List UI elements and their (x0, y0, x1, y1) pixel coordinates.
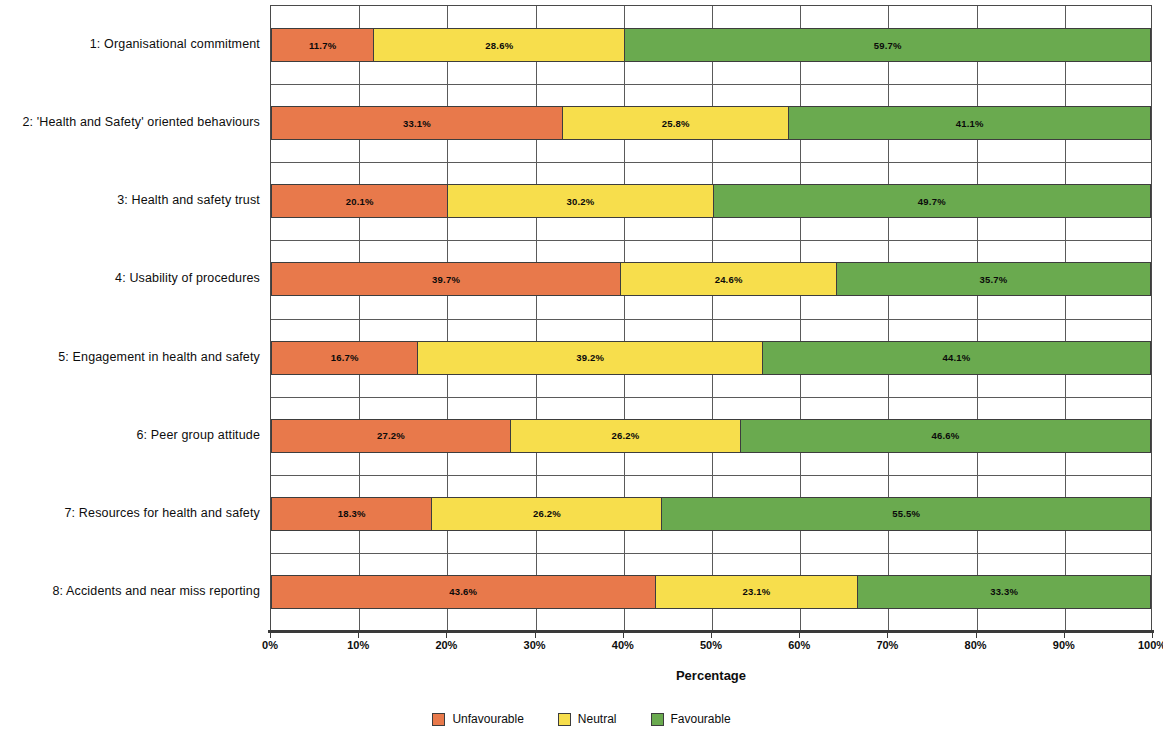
x-axis-tick (799, 633, 800, 638)
bar-value-label: 46.6% (932, 430, 960, 441)
bar-row[interactable]: 18.3%26.2%55.5% (271, 497, 1151, 531)
bar-row[interactable]: 16.7%39.2%44.1% (271, 341, 1151, 375)
x-axis-tick-label: 40% (612, 639, 634, 651)
bar-segment-neutral[interactable]: 23.1% (655, 575, 859, 609)
legend-label: Neutral (578, 712, 617, 726)
category-label: 1: Organisational commitment (2, 37, 260, 51)
category-label: 3: Health and safety trust (2, 193, 260, 207)
bar-value-label: 59.7% (874, 40, 902, 51)
bar-segment-unfavourable[interactable]: 43.6% (271, 575, 656, 609)
bar-segment-neutral[interactable]: 30.2% (447, 184, 713, 218)
bar-segment-unfavourable[interactable]: 16.7% (271, 341, 418, 375)
bar-value-label: 39.2% (576, 352, 604, 363)
category-label: 5: Engagement in health and safety (2, 350, 260, 364)
x-axis-tick-label: 60% (788, 639, 810, 651)
horizontal-gridline (271, 240, 1151, 241)
bar-row[interactable]: 27.2%26.2%46.6% (271, 419, 1151, 453)
legend-swatch-icon (432, 713, 445, 726)
bar-segment-neutral[interactable]: 26.2% (431, 497, 662, 531)
x-axis-tick (446, 633, 447, 638)
x-axis-tick (270, 633, 271, 638)
bar-segment-favourable[interactable]: 55.5% (661, 497, 1151, 531)
bar-segment-unfavourable[interactable]: 18.3% (271, 497, 432, 531)
x-axis-tick-label: 20% (435, 639, 457, 651)
bar-segment-favourable[interactable]: 49.7% (713, 184, 1151, 218)
horizontal-gridline (271, 475, 1151, 476)
category-axis-labels: 1: Organisational commitment2: 'Health a… (0, 5, 266, 630)
x-axis-tick (623, 633, 624, 638)
bar-segment-favourable[interactable]: 59.7% (624, 28, 1151, 62)
bar-segment-favourable[interactable]: 33.3% (857, 575, 1151, 609)
bar-row[interactable]: 43.6%23.1%33.3% (271, 575, 1151, 609)
x-axis-tick-label: 80% (965, 639, 987, 651)
bar-segment-neutral[interactable]: 25.8% (562, 106, 790, 140)
bar-segment-favourable[interactable]: 44.1% (762, 341, 1151, 375)
vertical-gridline (712, 6, 713, 630)
chart-legend: UnfavourableNeutralFavourable (0, 712, 1163, 726)
bar-segment-neutral[interactable]: 26.2% (510, 419, 741, 453)
bar-segment-unfavourable[interactable]: 20.1% (271, 184, 448, 218)
legend-swatch-icon (651, 713, 664, 726)
bar-value-label: 23.1% (742, 586, 770, 597)
bar-segment-unfavourable[interactable]: 11.7% (271, 28, 374, 62)
x-axis-tick-labels: 0%10%20%30%40%50%60%70%80%90%100% (270, 639, 1152, 655)
vertical-gridline (1065, 6, 1066, 630)
x-axis-tick (887, 633, 888, 638)
vertical-gridline (977, 6, 978, 630)
bar-value-label: 35.7% (980, 274, 1008, 285)
bar-value-label: 25.8% (662, 118, 690, 129)
bar-row[interactable]: 39.7%24.6%35.7% (271, 262, 1151, 296)
x-axis-tick-label: 30% (524, 639, 546, 651)
x-axis-tick (1064, 633, 1065, 638)
horizontal-gridline (271, 84, 1151, 85)
vertical-gridline (800, 6, 801, 630)
legend-item[interactable]: Unfavourable (432, 712, 523, 726)
bar-value-label: 11.7% (309, 40, 336, 51)
category-label: 8: Accidents and near miss reporting (2, 584, 260, 598)
vertical-gridline (888, 6, 889, 630)
bar-value-label: 39.7% (432, 274, 460, 285)
bar-value-label: 30.2% (566, 196, 594, 207)
bar-row[interactable]: 33.1%25.8%41.1% (271, 106, 1151, 140)
legend-swatch-icon (558, 713, 571, 726)
bar-value-label: 24.6% (715, 274, 743, 285)
bar-segment-neutral[interactable]: 28.6% (373, 28, 625, 62)
bar-segment-favourable[interactable]: 35.7% (836, 262, 1151, 296)
horizontal-gridline (271, 397, 1151, 398)
horizontal-gridline (271, 553, 1151, 554)
bar-row[interactable]: 20.1%30.2%49.7% (271, 184, 1151, 218)
bar-value-label: 16.7% (331, 352, 359, 363)
bar-segment-unfavourable[interactable]: 27.2% (271, 419, 511, 453)
bar-segment-neutral[interactable]: 24.6% (620, 262, 837, 296)
x-axis-tick-label: 70% (876, 639, 898, 651)
x-axis-tick-label: 50% (700, 639, 722, 651)
bar-value-label: 55.5% (892, 508, 920, 519)
bar-value-label: 20.1% (346, 196, 374, 207)
legend-label: Favourable (671, 712, 731, 726)
horizontal-gridline (271, 319, 1151, 320)
bar-value-label: 33.3% (990, 586, 1018, 597)
x-axis-tick (711, 633, 712, 638)
bar-segment-unfavourable[interactable]: 33.1% (271, 106, 563, 140)
x-axis-title: Percentage (270, 668, 1152, 683)
vertical-gridline (624, 6, 625, 630)
bar-segment-neutral[interactable]: 39.2% (417, 341, 763, 375)
x-axis-tick (358, 633, 359, 638)
bar-value-label: 26.2% (611, 430, 639, 441)
bar-value-label: 27.2% (377, 430, 405, 441)
bar-value-label: 28.6% (485, 40, 513, 51)
horizontal-gridline (271, 162, 1151, 163)
stacked-bar-chart: 1: Organisational commitment2: 'Health a… (0, 0, 1163, 748)
legend-item[interactable]: Favourable (651, 712, 731, 726)
bar-segment-favourable[interactable]: 41.1% (788, 106, 1151, 140)
x-axis-tick-label: 100% (1138, 639, 1163, 651)
category-label: 7: Resources for health and safety (2, 506, 260, 520)
legend-item[interactable]: Neutral (558, 712, 617, 726)
bar-value-label: 33.1% (403, 118, 431, 129)
bar-segment-favourable[interactable]: 46.6% (740, 419, 1151, 453)
bar-row[interactable]: 11.7%28.6%59.7% (271, 28, 1151, 62)
plot-area: 11.7%28.6%59.7%33.1%25.8%41.1%20.1%30.2%… (270, 5, 1152, 630)
bar-segment-unfavourable[interactable]: 39.7% (271, 262, 621, 296)
bar-value-label: 44.1% (943, 352, 971, 363)
x-axis-tick-label: 10% (347, 639, 369, 651)
